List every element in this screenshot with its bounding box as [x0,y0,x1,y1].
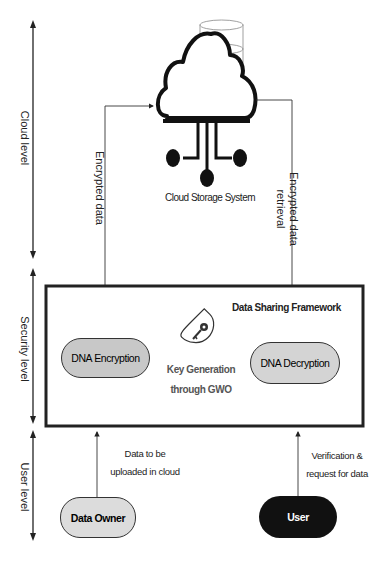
key-generation-text: Key Generation through GWO [164,360,238,400]
cloud-storage-label: Cloud Storage System [160,192,260,203]
edge-label-encrypted-data: Encrypted data [94,143,106,233]
upload-line2: uploaded in cloud [110,463,180,481]
cloud-database-icon [158,20,256,187]
edge-label-request: Verification & request for data [305,447,369,483]
dna-encryption-label: DNA Encryption [71,352,140,364]
user-level-label: User level [19,454,31,520]
request-line1: Verification & [305,447,369,465]
data-owner-label: Data Owner [71,512,125,524]
framework-title: Data Sharing Framework [232,302,341,313]
user-node: User [259,496,337,538]
request-line2: request for data [305,465,369,483]
data-owner-node: Data Owner [60,497,136,538]
key-generation-line1: Key Generation [164,360,238,380]
cloud-level-label: Cloud level [19,105,31,171]
user-label: User [287,511,309,523]
edge-label-encrypted-retrieval: Encrypted data retrieval [274,159,300,259]
edge-label-upload: Data to be uploaded in cloud [110,445,180,481]
key-generation-line2: through GWO [164,380,238,400]
dna-decryption-node: DNA Decryption [250,342,340,384]
dna-decryption-label: DNA Decryption [260,357,329,369]
upload-line1: Data to be [110,445,180,463]
edge-label-retrieval-line2: retrieval [274,159,287,259]
security-level-label: Security level [19,311,31,387]
edge-label-retrieval-line1: Encrypted data [287,159,300,259]
dna-encryption-node: DNA Encryption [61,338,150,378]
